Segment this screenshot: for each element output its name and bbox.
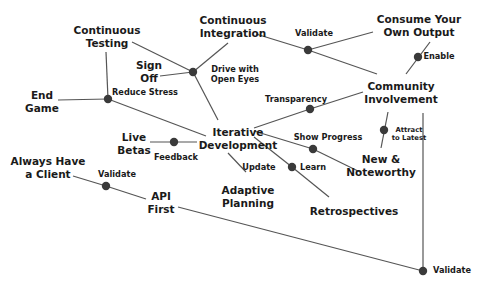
concept-label-text: Testing <box>74 37 141 50</box>
concept-label-new-and-noteworthy: New &Noteworthy <box>346 153 416 178</box>
concept-map: ContinuousTestingContinuousIntegrationCo… <box>0 0 479 285</box>
relation-label-validate-bottom: Validate <box>433 266 471 276</box>
relation-label-enable: Enable <box>423 52 454 62</box>
connector-line <box>160 72 193 76</box>
relation-label-text: Validate <box>98 170 136 180</box>
relation-label-text: Reduce Stress <box>112 88 178 98</box>
concept-label-text: Iterative <box>199 126 278 139</box>
concept-label-text: Planning <box>222 197 275 210</box>
concept-label-api-first: APIFirst <box>147 190 174 215</box>
relation-label-show-progress: Show Progress <box>294 133 363 143</box>
concept-label-iterative-development: IterativeDevelopment <box>199 126 278 151</box>
relation-label-reduce-stress: Reduce Stress <box>112 88 178 98</box>
concept-label-text: a Client <box>11 168 86 181</box>
relation-label-text: Enable <box>423 52 454 62</box>
concept-label-text: First <box>147 203 174 216</box>
concept-label-text: Always Have <box>11 155 86 168</box>
concept-label-text: Retrospectives <box>310 205 399 218</box>
concept-label-text: Continuous <box>74 24 141 37</box>
concept-label-text: Own Output <box>377 26 461 39</box>
junction-node-hub-show-progress <box>309 145 317 153</box>
connector-line <box>106 186 146 199</box>
relation-label-learn: Learn <box>300 163 326 173</box>
relation-label-text: Validate <box>295 29 333 39</box>
junction-node-hub-reduce-stress <box>104 95 112 103</box>
junction-node-hub-validate-bottom <box>419 267 427 275</box>
concept-label-end-game: EndGame <box>25 89 59 114</box>
relation-label-text: Update <box>242 163 275 173</box>
junction-node-hub-validate-api <box>102 182 110 190</box>
concept-label-text: Betas <box>117 144 150 157</box>
concept-label-text: API <box>147 190 174 203</box>
concept-label-text: Continuous <box>200 14 267 27</box>
connector-line <box>58 99 108 100</box>
concept-label-live-betas: LiveBetas <box>117 131 150 156</box>
concept-label-text: Sign <box>136 59 162 72</box>
relation-label-validate-ci: Validate <box>295 29 333 39</box>
concept-label-text: Development <box>199 139 278 152</box>
relation-label-text: Learn <box>300 163 326 173</box>
relation-label-text: Show Progress <box>294 133 363 143</box>
concept-label-text: End <box>25 89 59 102</box>
junction-node-hub-validate-ci <box>304 46 312 54</box>
connector-line <box>106 52 108 99</box>
junction-node-hub-learn <box>288 163 296 171</box>
relation-label-text: Attract <box>392 126 426 134</box>
concept-label-retrospectives: Retrospectives <box>310 205 399 218</box>
relation-label-text: Validate <box>433 266 471 276</box>
junction-node-hub-feedback <box>170 138 178 146</box>
relation-label-update: Update <box>242 163 275 173</box>
relation-label-attract-to-latest: Attractto Latest <box>392 126 426 142</box>
relation-label-feedback: Feedback <box>154 153 198 163</box>
concept-label-text: Off <box>136 72 162 85</box>
junction-node-hub-enable <box>414 53 422 61</box>
concept-label-text: New & <box>346 153 416 166</box>
relation-label-text: Feedback <box>154 153 198 163</box>
concept-label-text: Noteworthy <box>346 166 416 179</box>
concept-label-text: Integration <box>200 27 267 40</box>
relation-label-text: Transparency <box>265 95 327 105</box>
concept-label-text: Adaptive <box>222 184 275 197</box>
concept-label-adaptive-planning: AdaptivePlanning <box>222 184 275 209</box>
relation-label-text: to Latest <box>392 134 426 142</box>
junction-node-hub-sign-off <box>189 68 197 76</box>
relation-label-validate-api: Validate <box>98 170 136 180</box>
junction-node-hub-transparency <box>306 105 314 113</box>
relation-label-drive-with-open-eyes: Drive withOpen Eyes <box>211 65 259 85</box>
relation-label-transparency: Transparency <box>265 95 327 105</box>
concept-label-text: Live <box>117 131 150 144</box>
concept-label-text: Community <box>364 80 438 93</box>
connector-line <box>308 50 377 74</box>
connector-line <box>254 109 310 128</box>
concept-label-text: Involvement <box>364 93 438 106</box>
concept-label-consume-your-own-output: Consume YourOwn Output <box>377 13 461 38</box>
concept-label-text: Consume Your <box>377 13 461 26</box>
concept-label-sign-off: SignOff <box>136 59 162 84</box>
concept-label-continuous-testing: ContinuousTesting <box>74 24 141 49</box>
concept-label-always-have-a-client: Always Havea Client <box>11 155 86 180</box>
concept-label-community-involvement: CommunityInvolvement <box>364 80 438 105</box>
relation-label-text: Open Eyes <box>211 75 259 85</box>
junction-node-hub-attract <box>380 126 388 134</box>
concept-label-continuous-integration: ContinuousIntegration <box>200 14 267 39</box>
concept-label-text: Game <box>25 102 59 115</box>
